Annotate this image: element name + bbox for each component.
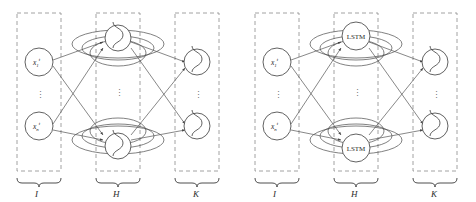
right-output-node-2 <box>422 110 448 139</box>
right-input-node-1: x1t <box>263 48 291 76</box>
right-hidden-ellipsis: ⋮ <box>353 88 362 98</box>
right-input-brace <box>255 178 299 187</box>
right-output-ellipsis: ⋮ <box>432 90 441 100</box>
left-hidden-node-2 <box>105 130 131 159</box>
right-input-ellipsis: ⋮ <box>274 90 283 100</box>
left-output-brace <box>175 178 219 187</box>
right-edge-h1-k2 <box>369 48 423 124</box>
right-output-node-1 <box>422 46 448 75</box>
right-edge-h2-k2 <box>369 130 423 140</box>
right-hidden-node-2-label: LSTM <box>347 145 366 153</box>
left-edge-i1-h2 <box>53 66 103 135</box>
left-output-node-1 <box>184 46 210 75</box>
panel-right: x1t xnt ⋮ LSTM LSTM ⋮ <box>255 13 457 199</box>
left-output-node-2 <box>184 110 210 139</box>
left-input-group-label: I <box>34 189 39 199</box>
right-edge-in-h1 <box>291 48 341 124</box>
right-input-node-n: xnt <box>263 112 291 140</box>
left-output-group-label: K <box>192 189 200 199</box>
right-hidden-brace <box>334 178 378 187</box>
left-edge-in-h2 <box>53 130 103 140</box>
panel-left: x1t xnt ⋮ ⋮ <box>17 13 219 199</box>
right-edge-h2-k1 <box>369 68 423 135</box>
left-output-ellipsis: ⋮ <box>194 90 203 100</box>
left-edge-in-h1 <box>53 48 103 124</box>
left-edge-h1-k2 <box>131 48 185 124</box>
network-diagram-svg: x1t xnt ⋮ ⋮ <box>0 0 476 202</box>
left-input-node-1: x1t <box>25 48 53 76</box>
right-hidden-node-1-label: LSTM <box>347 33 366 41</box>
right-input-node-1-sub: 1 <box>274 63 277 68</box>
figure-canvas: x1t xnt ⋮ ⋮ <box>0 0 476 202</box>
left-hidden-brace <box>96 178 140 187</box>
right-hidden-node-2: LSTM <box>342 134 370 162</box>
left-edge-h2-k1 <box>131 68 185 135</box>
left-hidden-group-label: H <box>112 189 120 199</box>
right-hidden-group-label: H <box>350 189 358 199</box>
left-hidden-ellipsis: ⋮ <box>115 88 124 98</box>
right-output-brace <box>413 178 457 187</box>
right-output-group-label: K <box>430 189 438 199</box>
left-input-node-1-sub: 1 <box>36 63 39 68</box>
left-hidden-node-1 <box>105 22 131 51</box>
left-input-ellipsis: ⋮ <box>36 90 45 100</box>
right-hidden-node-1: LSTM <box>342 22 370 50</box>
left-input-brace <box>17 178 61 187</box>
right-edge-in-h2 <box>291 130 341 140</box>
left-edge-h2-k2 <box>131 130 185 140</box>
right-edge-i1-h2 <box>291 66 341 135</box>
left-input-node-n: xnt <box>25 112 53 140</box>
right-input-group-label: I <box>272 189 277 199</box>
